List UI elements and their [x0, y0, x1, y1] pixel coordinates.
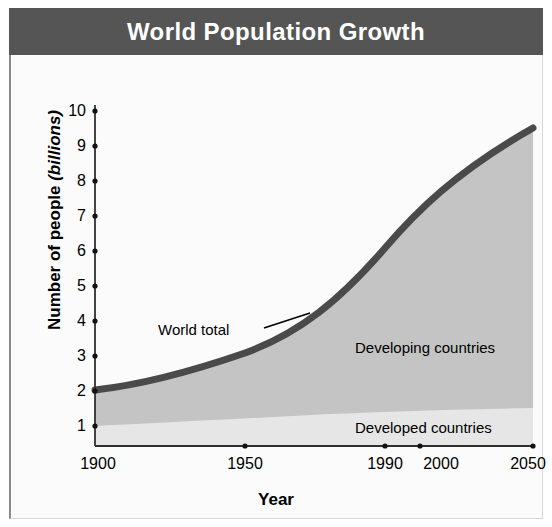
y-axis-title-unit: (billions): [45, 110, 64, 181]
annotation-developed-countries: Developed countries: [355, 420, 492, 435]
x-tick-label: 2000: [423, 456, 459, 472]
x-tick-label: 2050: [510, 456, 546, 472]
y-axis-title-main: Number of people: [45, 181, 64, 330]
x-tick-label: 1990: [367, 456, 403, 472]
chart-figure: World Population Growth: [0, 0, 552, 527]
x-axis-title: Year: [0, 490, 552, 510]
y-axis-title: Number of people (billions): [45, 70, 65, 370]
annotation-world-total: World total: [158, 322, 229, 337]
annotation-developing-countries: Developing countries: [355, 340, 495, 355]
x-tick-label-group: 1900 1950 1990 2000 2050: [0, 0, 552, 527]
x-tick-label: 1900: [80, 456, 116, 472]
x-tick-label: 1950: [227, 456, 263, 472]
